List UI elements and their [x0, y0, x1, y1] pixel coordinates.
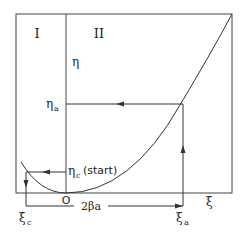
- eta-a-subscript: a: [54, 104, 59, 113]
- arrow-right-icon: [175, 204, 183, 209]
- arrow-down-icon: [24, 180, 29, 188]
- arrow-left-icon: [116, 102, 124, 107]
- eta-axis-label: η: [72, 55, 79, 69]
- arrow-up-icon: [181, 145, 186, 153]
- origin-label: O: [62, 194, 71, 207]
- xi-a-label: ξ: [176, 211, 183, 225]
- eta-c-subscript: c: [76, 171, 81, 180]
- eta-c-label: η: [68, 164, 75, 178]
- eta-a-label: η: [46, 97, 53, 111]
- region-i-label: I: [34, 26, 39, 41]
- xi-c-subscript: c: [27, 218, 32, 227]
- xi-a-subscript: a: [184, 218, 189, 227]
- xi-axis-label: ξ: [206, 195, 213, 209]
- span-label: 2βa: [81, 200, 101, 213]
- arrow-left-icon: [42, 170, 50, 175]
- xi-c-label: ξ: [19, 211, 26, 225]
- eta-c-start-note: (start): [83, 164, 117, 177]
- region-ii-label: II: [94, 26, 104, 41]
- phase-diagram: I II η η a η c (start) O 2βa ξ ξ c ξ a: [0, 0, 242, 241]
